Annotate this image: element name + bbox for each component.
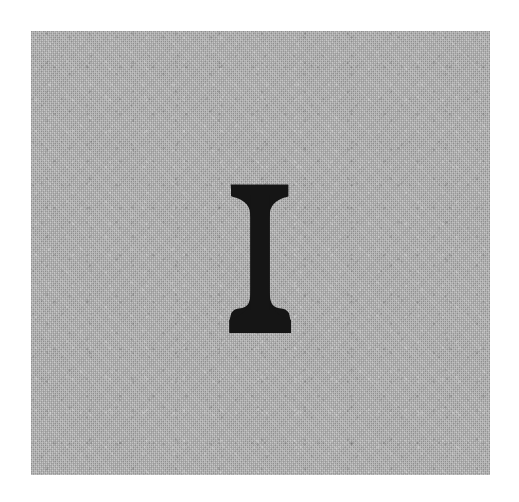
gray-textured-panel: [31, 31, 490, 475]
image-canvas: [0, 0, 519, 502]
panel-texture-overlay: [31, 31, 490, 475]
panel-speckle-overlay: [31, 31, 490, 475]
